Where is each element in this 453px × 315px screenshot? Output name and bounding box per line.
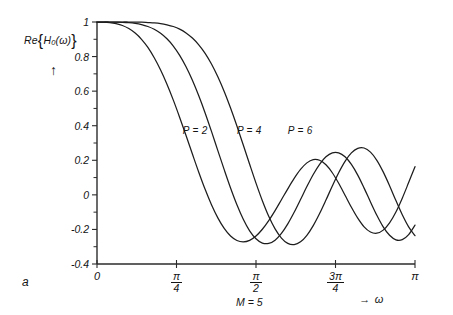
y-tick-label: 0.4: [74, 121, 89, 132]
curve-label: P = 6: [288, 126, 313, 136]
y-tick-label: -0.4: [71, 259, 89, 270]
y-tick-label: 1: [83, 17, 89, 28]
y-axis-label-func: H: [43, 34, 51, 46]
y-tick-label: 0.6: [74, 86, 89, 97]
x-tick-label: 0: [77, 271, 117, 282]
y-tick-label: 0.2: [74, 155, 89, 166]
y-axis-direction-arrow-icon: ↑: [50, 62, 57, 78]
y-tick-label: 0.8: [74, 52, 89, 63]
curve-label: P = 4: [237, 126, 262, 136]
y-axis-label-prefix: Re: [24, 34, 38, 46]
y-axis-label-brace-close: }: [71, 32, 77, 49]
y-tick-label: 0: [83, 190, 89, 201]
curve-label: P = 2: [183, 126, 208, 136]
x-axis-label-group: → ω: [359, 290, 383, 306]
x-axis-arrow-icon: →: [359, 293, 370, 305]
x-tick-label: π2: [236, 271, 276, 294]
y-axis-label-argument: (ω): [56, 34, 72, 46]
x-axis-label: ω: [375, 293, 384, 305]
y-axis-ticks: [92, 22, 97, 264]
x-tick-label: 3π4: [316, 271, 356, 294]
panel-label: a: [22, 276, 29, 288]
x-tick-label: π4: [157, 271, 197, 294]
y-axis-label: Re{H0(ω)}: [24, 33, 77, 49]
axes-group: [92, 22, 415, 268]
x-tick-label: π: [395, 271, 435, 282]
y-tick-label: -0.2: [71, 224, 89, 235]
m-value-annotation: M = 5: [236, 297, 263, 308]
figure-panel: 10.80.60.40.20-0.2-0.4 0π4π23π4π P = 2P …: [0, 0, 453, 315]
